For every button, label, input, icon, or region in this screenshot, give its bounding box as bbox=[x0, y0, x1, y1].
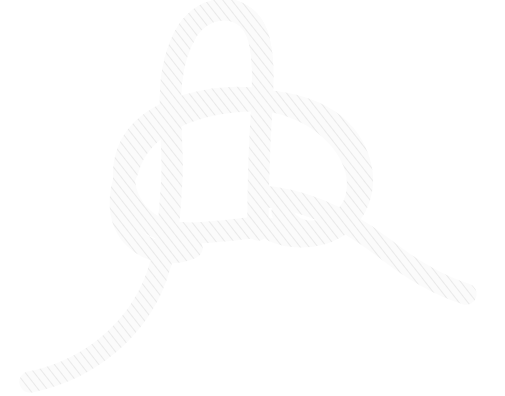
bight-over-collar-detail bbox=[30, 10, 263, 382]
illustration-canvas: Rope knot line drawing bbox=[0, 0, 505, 396]
knot-drawing bbox=[0, 0, 505, 396]
segment-standing-part bbox=[30, 10, 263, 382]
